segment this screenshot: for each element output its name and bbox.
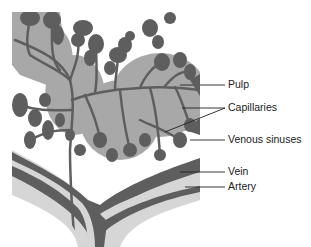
label-capillaries: Capillaries [228, 102, 277, 113]
vessel-bands [12, 150, 200, 247]
label-vein: Vein [228, 166, 248, 177]
label-pulp: Pulp [228, 79, 249, 90]
label-artery: Artery [228, 181, 256, 192]
spleen-microcirculation-diagram [0, 0, 311, 247]
label-venous-sinuses: Venous sinuses [228, 134, 302, 145]
